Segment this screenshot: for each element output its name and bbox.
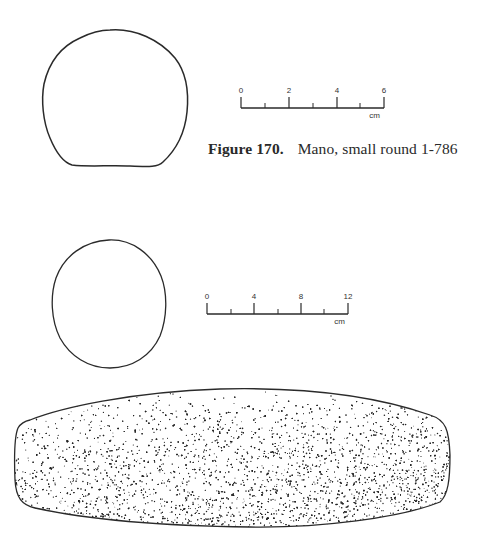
scale-bar-12cm: 0 4 8 12 cm [205,292,353,326]
scale-tick-label: 4 [335,86,340,95]
scale-tick-label: 0 [239,86,244,95]
figure-number: Figure 170. [208,140,284,157]
figure-plate: 0 2 4 6 cm 0 4 8 12 cm [0,0,500,553]
scale-tick-label: 4 [252,292,257,301]
scale-tick-label: 8 [299,292,304,301]
scale-tick-label: 6 [382,86,387,95]
scale-tick-label: 2 [287,86,292,95]
mano-stipple-shading [15,388,452,529]
mano-side-view-outline [15,389,450,527]
scale-unit-label: cm [334,317,345,326]
scale-unit-label: cm [369,111,380,120]
mano-small-round-outline [43,30,188,167]
figure-caption: Figure 170.Mano, small round 1-786 [208,140,458,158]
scale-tick-label: 0 [205,292,210,301]
figure-caption-text: Mano, small round 1-786 [298,140,458,157]
scale-tick-label: 12 [344,292,353,301]
scale-bar-6cm: 0 2 4 6 cm [239,86,387,120]
mano-cross-section-outline [52,240,166,368]
